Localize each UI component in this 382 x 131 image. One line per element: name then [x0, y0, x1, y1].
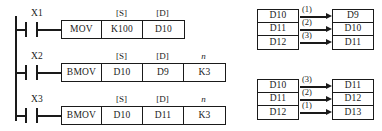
contact-label-x1: X1: [22, 8, 52, 18]
destination-header-label: [D]: [142, 8, 183, 18]
source-header-label: [S]: [101, 8, 142, 18]
instruction-box-mov: MOV K100 D10: [61, 20, 185, 39]
transfer-diagram-forward: D10 D11 D12 (1) (2) (3) D9 D10: [210, 9, 382, 53]
rung-1: X1 [S] [D] MOV K100 D10: [0, 8, 210, 52]
contact-label-x2: X2: [22, 51, 52, 61]
register-cell: D11: [333, 80, 373, 93]
arrow-shaft: [300, 42, 327, 44]
wire-segment: [16, 72, 25, 74]
instruction-mnemonic: BMOV: [62, 64, 102, 81]
register-cell: D9: [333, 10, 373, 23]
transfer-order-label: (1): [302, 5, 312, 14]
wire-segment: [37, 29, 62, 31]
source-header-label: [S]: [101, 94, 142, 104]
instruction-box-bmov-reverse: BMOV D10 D11 K3: [61, 106, 226, 125]
normally-open-contact-icon: [25, 65, 27, 80]
register-cell: D12: [258, 36, 298, 49]
register-cell: D10: [333, 23, 373, 36]
source-register-table: D10 D11 D12: [257, 9, 299, 50]
register-cell: D13: [333, 106, 373, 119]
register-cell: D10: [258, 80, 298, 93]
register-cell: D11: [333, 36, 373, 49]
transfer-order-label: (2): [302, 18, 312, 27]
operand-source: D10: [102, 64, 143, 81]
transfer-order-label: (3): [302, 75, 312, 84]
normally-open-contact-icon: [25, 108, 27, 123]
operand-destination: D11: [143, 107, 184, 124]
ladder-program: X1 [S] [D] MOV K100 D10 X2 [S] [D] n: [0, 0, 210, 131]
transfer-arrow: (1): [300, 112, 332, 114]
instruction-box-bmov-forward: BMOV D10 D9 K3: [61, 63, 226, 82]
destination-header-label: [D]: [142, 94, 183, 104]
wire-segment: [16, 115, 25, 117]
rung-3: X3 [S] [D] n BMOV D10 D11 K3: [0, 94, 210, 131]
instruction-mnemonic: BMOV: [62, 107, 102, 124]
operand-destination: D10: [143, 21, 184, 38]
ladder-diagram-figure: X1 [S] [D] MOV K100 D10 X2 [S] [D] n: [0, 0, 382, 131]
rung-2: X2 [S] [D] n BMOV D10 D9 K3: [0, 51, 210, 95]
wire-segment: [37, 115, 62, 117]
register-cell: D11: [258, 23, 298, 36]
register-cell: D10: [258, 10, 298, 23]
transfer-diagrams: D10 D11 D12 (1) (2) (3) D9 D10: [210, 0, 382, 131]
register-cell: D12: [333, 93, 373, 106]
wire-segment: [16, 29, 25, 31]
transfer-order-label: (1): [302, 101, 312, 110]
wire-segment: [37, 72, 62, 74]
source-header-label: [S]: [101, 51, 142, 61]
destination-register-table: D9 D10 D11: [332, 9, 374, 50]
register-cell: D11: [258, 93, 298, 106]
normally-open-contact-icon: [25, 22, 27, 37]
arrow-shaft: [300, 112, 327, 114]
destination-register-table: D11 D12 D13: [332, 79, 374, 120]
instruction-mnemonic: MOV: [62, 21, 102, 38]
source-register-table: D10 D11 D12: [257, 79, 299, 120]
register-cell: D12: [258, 106, 298, 119]
operand-source: D10: [102, 107, 143, 124]
transfer-order-label: (3): [302, 31, 312, 40]
operand-source: K100: [102, 21, 143, 38]
operand-destination: D9: [143, 64, 184, 81]
contact-label-x3: X3: [22, 94, 52, 104]
transfer-diagram-reverse: D10 D11 D12 (3) (2) (1) D11 D12: [210, 79, 382, 123]
transfer-arrow: (3): [300, 42, 332, 44]
transfer-order-label: (2): [302, 88, 312, 97]
destination-header-label: [D]: [142, 51, 183, 61]
